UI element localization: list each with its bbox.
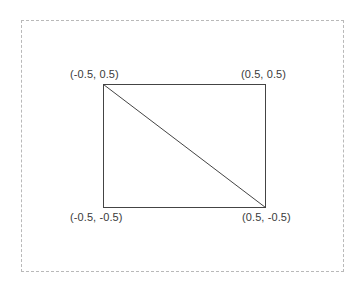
corner-label-bottom-right: (0.5, -0.5) <box>242 211 291 224</box>
corner-label-top-right: (0.5, 0.5) <box>241 68 286 81</box>
corner-label-top-left: (-0.5, 0.5) <box>70 68 119 81</box>
shape-layer <box>0 0 364 288</box>
figure-canvas: (-0.5, 0.5) (0.5, 0.5) (-0.5, -0.5) (0.5… <box>0 0 364 288</box>
diagonal-line <box>104 85 266 208</box>
corner-label-bottom-left: (-0.5, -0.5) <box>70 211 123 224</box>
